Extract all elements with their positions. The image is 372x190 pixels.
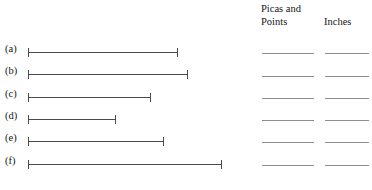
measurement-segment-a [28, 48, 178, 58]
segment-rule-e [28, 141, 164, 142]
segment-rule-f [28, 164, 222, 165]
answer-blank-picas-and-points-f[interactable] [262, 165, 314, 166]
answer-blank-inches-c[interactable] [325, 98, 369, 99]
answer-blank-picas-and-points-e[interactable] [262, 142, 314, 143]
row-label-e: (e) [5, 131, 27, 145]
segment-rule-b [28, 74, 188, 75]
measurement-worksheet: Picas and Points Inches (a)(b)(c)(d)(e)(… [0, 0, 372, 190]
measurement-segment-d [28, 115, 116, 125]
measurement-segment-c [28, 93, 151, 103]
row-label-d: (d) [5, 109, 27, 123]
answer-blank-inches-d[interactable] [325, 120, 369, 121]
answer-blank-inches-a[interactable] [325, 53, 369, 54]
answer-blank-inches-f[interactable] [325, 165, 369, 166]
row-label-c: (c) [5, 87, 27, 101]
measurement-row-d: (d) [0, 109, 372, 131]
segment-endcap-left-c [28, 93, 29, 102]
measurement-segment-f [28, 160, 222, 170]
segment-endcap-right-d [115, 115, 116, 124]
segment-rule-d [28, 119, 116, 120]
measurement-segment-b [28, 70, 188, 80]
segment-rule-c [28, 97, 151, 98]
row-label-f: (f) [5, 154, 27, 168]
measurement-row-c: (c) [0, 87, 372, 109]
measurement-row-e: (e) [0, 131, 372, 153]
answer-blank-picas-and-points-d[interactable] [262, 120, 314, 121]
answer-blank-inches-b[interactable] [325, 76, 369, 77]
row-label-a: (a) [5, 42, 27, 56]
segment-endcap-right-e [163, 137, 164, 146]
answer-blank-picas-and-points-a[interactable] [262, 53, 314, 54]
measurement-row-a: (a) [0, 42, 372, 64]
segment-endcap-right-a [177, 48, 178, 57]
segment-rule-a [28, 52, 178, 53]
segment-endcap-left-b [28, 70, 29, 79]
measurement-row-f: (f) [0, 154, 372, 176]
segment-endcap-left-d [28, 115, 29, 124]
segment-endcap-left-f [28, 160, 29, 169]
segment-endcap-left-e [28, 137, 29, 146]
segment-endcap-right-c [150, 93, 151, 102]
column-heading-inches: Inches [324, 15, 372, 28]
segment-endcap-left-a [28, 48, 29, 57]
answer-blank-picas-and-points-b[interactable] [262, 76, 314, 77]
segment-endcap-right-f [221, 160, 222, 169]
measurement-segment-e [28, 137, 164, 147]
measurement-row-b: (b) [0, 64, 372, 86]
answer-blank-inches-e[interactable] [325, 142, 369, 143]
row-label-b: (b) [5, 64, 27, 78]
column-heading-picas-and-points: Picas and Points [261, 2, 321, 28]
segment-endcap-right-b [187, 70, 188, 79]
answer-blank-picas-and-points-c[interactable] [262, 98, 314, 99]
